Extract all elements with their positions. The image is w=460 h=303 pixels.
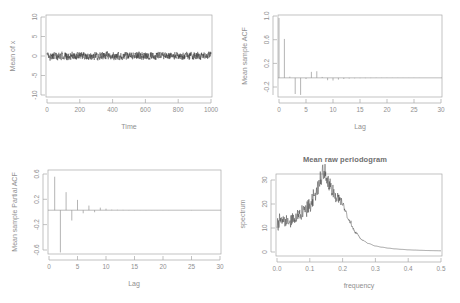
- acf-ytick-1: 0.6: [263, 35, 270, 44]
- acf-xtick-4: 20: [383, 106, 391, 113]
- periodogram-xtick-0: 0.0: [273, 265, 282, 272]
- acf-xlabel: Lag: [354, 123, 366, 131]
- timeseries-xlabel: Time: [121, 123, 136, 130]
- acf-plot: 1.0 0.6 0.2 -0.2 0 5 10 15: [230, 0, 460, 152]
- timeseries-ytick-4: -10: [31, 90, 38, 100]
- timeseries-x-axis: 0 200 400 600 800 1000: [45, 99, 218, 113]
- pacf-xtick-0: 0: [47, 263, 51, 270]
- periodogram-xtick-3: 0.3: [371, 265, 380, 272]
- acf-xtick-3: 15: [356, 106, 364, 113]
- periodogram-ytick-0: 0: [261, 250, 268, 254]
- pacf-y-axis: 0.6 0.2 -0.2 -0.6: [33, 169, 47, 255]
- timeseries-y-axis: 10 5 0 -5 -10: [31, 13, 45, 100]
- pacf-frame: [48, 170, 221, 254]
- pacf-ytick-1: 0.2: [33, 194, 40, 203]
- timeseries-xtick-2: 400: [107, 106, 118, 113]
- timeseries-ytick-1: 5: [31, 34, 38, 38]
- periodogram-xtick-5: 0.5: [437, 265, 446, 272]
- acf-ytick-2: 0.2: [263, 59, 270, 68]
- periodogram-xtick-4: 0.4: [404, 265, 413, 272]
- acf-ylabel: Mean sample ACF: [241, 27, 249, 85]
- periodogram-line: [277, 164, 441, 251]
- timeseries-xtick-0: 0: [45, 106, 49, 113]
- acf-frame: [278, 15, 442, 97]
- pacf-xtick-3: 15: [131, 263, 139, 270]
- periodogram-xtick-2: 0.2: [338, 265, 347, 272]
- panel-acf: 1.0 0.6 0.2 -0.2 0 5 10 15: [230, 0, 460, 152]
- timeseries-line: [47, 51, 211, 60]
- timeseries-plot: 10 5 0 -5 -10 0 200 400 600: [0, 0, 230, 152]
- periodogram-plot: 30 20 10 0 0.0 0.1 0.2 0.3 0.: [230, 152, 460, 303]
- timeseries-xtick-5: 1000: [204, 106, 219, 113]
- acf-xtick-2: 10: [329, 106, 337, 113]
- panel-timeseries: 10 5 0 -5 -10 0 200 400 600: [0, 0, 230, 152]
- pacf-xtick-6: 30: [216, 263, 224, 270]
- periodogram-ylabel: spectrum: [239, 199, 247, 228]
- pacf-y-ticks: [43, 174, 47, 250]
- acf-y-ticks: [273, 16, 277, 87]
- periodogram-y-ticks: [271, 180, 275, 252]
- pacf-xtick-2: 10: [102, 263, 110, 270]
- timeseries-y-ticks: [41, 17, 45, 95]
- acf-xtick-5: 25: [410, 106, 418, 113]
- pacf-ytick-3: -0.6: [33, 244, 40, 255]
- acf-y-axis: 1.0 0.6 0.2 -0.2: [263, 11, 277, 95]
- acf-ytick-3: -0.2: [263, 81, 270, 92]
- periodogram-ytick-3: 30: [261, 176, 268, 184]
- pacf-ytick-2: -0.2: [33, 219, 40, 230]
- pacf-xlabel: Lag: [128, 280, 140, 288]
- pacf-xtick-1: 5: [76, 263, 80, 270]
- periodogram-x-ticks: [277, 258, 441, 262]
- pacf-ytick-0: 0.6: [33, 169, 40, 178]
- periodogram-xtick-1: 0.1: [305, 265, 314, 272]
- pacf-xtick-4: 20: [159, 263, 167, 270]
- acf-xtick-1: 5: [304, 106, 308, 113]
- pacf-x-ticks: [49, 256, 220, 260]
- acf-xtick-6: 30: [437, 106, 445, 113]
- panel-periodogram: Mean raw periodogram 30 20 10 0: [230, 152, 460, 303]
- timeseries-xtick-4: 800: [173, 106, 184, 113]
- timeseries-ytick-2: 0: [31, 54, 38, 58]
- timeseries-ytick-0: 10: [31, 13, 38, 21]
- panel-pacf: 0.6 0.2 -0.2 -0.6 0 5 10 1: [0, 152, 230, 303]
- periodogram-ytick-1: 10: [261, 224, 268, 232]
- panel-periodogram-title: Mean raw periodogram: [230, 155, 460, 164]
- periodogram-ytick-2: 20: [261, 200, 268, 208]
- acf-ytick-0: 1.0: [263, 11, 270, 20]
- pacf-xtick-5: 25: [188, 263, 196, 270]
- timeseries-x-ticks: [47, 99, 211, 103]
- acf-xtick-0: 0: [277, 106, 281, 113]
- periodogram-y-axis: 30 20 10 0: [261, 176, 275, 254]
- acf-spikes: [278, 18, 442, 95]
- timeseries-xtick-3: 600: [140, 106, 151, 113]
- acf-x-axis: 0 5 10 15 20 25 30: [277, 99, 445, 113]
- pacf-x-axis: 0 5 10 15 20 25 30: [47, 256, 224, 270]
- periodogram-x-axis: 0.0 0.1 0.2 0.3 0.4 0.5: [273, 258, 446, 272]
- pacf-ylabel: Mean sample Partial ACF: [11, 172, 19, 251]
- timeseries-ylabel: Mean of x: [9, 40, 16, 71]
- timeseries-xtick-1: 200: [74, 106, 85, 113]
- pacf-spikes: [48, 177, 221, 253]
- timeseries-ytick-3: -5: [31, 72, 38, 78]
- acf-x-ticks: [279, 99, 441, 103]
- periodogram-xlabel: frequency: [344, 282, 375, 290]
- figure-canvas: 10 5 0 -5 -10 0 200 400 600: [0, 0, 460, 303]
- pacf-plot: 0.6 0.2 -0.2 -0.6 0 5 10 1: [0, 152, 230, 303]
